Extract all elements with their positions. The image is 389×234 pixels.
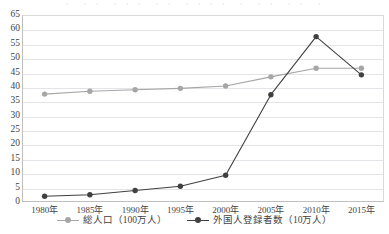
- data-point: [359, 72, 364, 77]
- y-tick-label-30: 30: [0, 111, 20, 121]
- data-point: [268, 92, 273, 97]
- data-point: [223, 173, 228, 178]
- legend-item-1[interactable]: 総人口（100万人）: [57, 214, 167, 226]
- series-layer: [22, 15, 384, 202]
- y-axis-labels: 05101520253035404550556065: [0, 15, 20, 202]
- y-tick-label-40: 40: [0, 82, 20, 92]
- data-point: [87, 89, 92, 94]
- data-point: [178, 183, 183, 188]
- data-point: [313, 34, 318, 39]
- data-point: [313, 66, 318, 71]
- y-tick-label-45: 45: [0, 68, 20, 78]
- legend-marker-icon: [57, 216, 79, 225]
- y-tick-label-15: 15: [0, 154, 20, 164]
- y-tick-label-5: 5: [0, 183, 20, 193]
- legend-marker-icon: [187, 216, 209, 225]
- series-2: [42, 34, 364, 199]
- data-point: [42, 194, 47, 199]
- y-tick-label-65: 65: [0, 10, 20, 20]
- data-point: [87, 192, 92, 197]
- data-point: [132, 188, 137, 193]
- data-point: [42, 91, 47, 96]
- y-tick-label-35: 35: [0, 97, 20, 107]
- data-point: [178, 86, 183, 91]
- line-chart: ・ ・・ ・・・ ・・ ・・・・ ・ ・・ ・・ ・ 0510152025303…: [0, 0, 389, 234]
- y-tick-label-25: 25: [0, 125, 20, 135]
- y-tick-label-10: 10: [0, 168, 20, 178]
- plot-wrapper: 05101520253035404550556065 1980年1985年199…: [0, 6, 389, 206]
- y-tick-label-0: 0: [0, 197, 20, 207]
- data-point: [268, 74, 273, 79]
- chart-legend: 総人口（100万人）外国人登録者数（10万人）: [0, 214, 389, 226]
- series-1: [42, 66, 364, 97]
- y-tick-label-50: 50: [0, 53, 20, 63]
- data-point: [132, 87, 137, 92]
- legend-item-2[interactable]: 外国人登録者数（10万人）: [187, 214, 333, 226]
- y-tick-label-55: 55: [0, 39, 20, 49]
- y-tick-label-20: 20: [0, 140, 20, 150]
- y-tick-label-60: 60: [0, 25, 20, 35]
- legend-label: 総人口（100万人）: [83, 214, 167, 226]
- data-point: [223, 83, 228, 88]
- legend-label: 外国人登録者数（10万人）: [213, 214, 333, 226]
- data-point: [359, 66, 364, 71]
- series-line: [45, 37, 362, 197]
